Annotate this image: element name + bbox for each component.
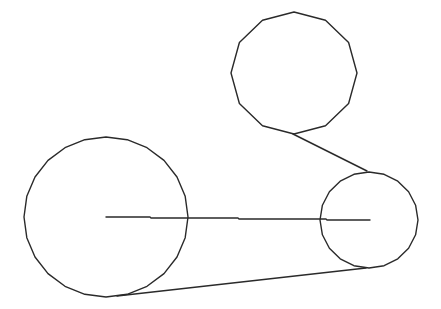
- lower-belt-segment: [117, 268, 366, 296]
- center-distance-line: [106, 217, 370, 220]
- pulley-belt-diagram: [0, 0, 441, 309]
- top-idler-pulley: [231, 12, 357, 134]
- upper-belt-segment: [293, 134, 367, 171]
